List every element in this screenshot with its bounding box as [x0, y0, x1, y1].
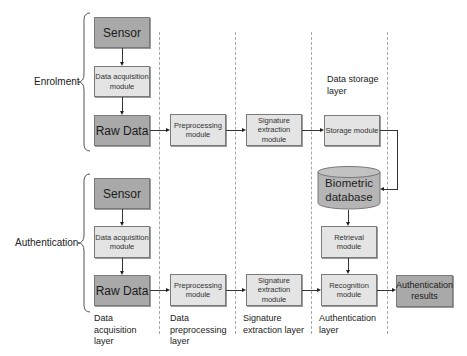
authentication-sensor-label: Sensor: [103, 187, 141, 201]
enrolment-sensor-label: Sensor: [103, 26, 141, 40]
connector: [377, 290, 392, 291]
biometric-database-label: Biometric database: [317, 177, 381, 205]
connector: [122, 258, 123, 271]
connector: [122, 97, 123, 111]
enrolment-label: Enrolment: [34, 76, 80, 87]
connector: [226, 290, 242, 291]
enrolment-signature-extraction-box: Signature extraction module: [246, 114, 302, 146]
data-storage-layer-label: Data storage layer: [327, 74, 385, 97]
enrolment-data-acquisition-box: Data acquisition module: [94, 66, 150, 97]
connector: [302, 290, 317, 291]
biometric-database: Biometric database: [317, 166, 381, 210]
authentication-raw-data-box: Raw Data: [94, 275, 150, 306]
enrolment-preprocessing-label: Preprocessing module: [171, 121, 225, 140]
connector: [226, 130, 242, 131]
layer-divider-1: [159, 32, 160, 334]
connector: [380, 130, 398, 131]
connector: [397, 130, 398, 189]
connector: [150, 130, 166, 131]
connector: [302, 130, 320, 131]
authentication-label: Authentication: [15, 237, 78, 248]
authentication-brace-icon: [76, 173, 92, 313]
connector: [348, 210, 349, 222]
retrieval-module-label: Retrieval module: [322, 233, 376, 252]
connector: [122, 209, 123, 222]
data-acquisition-layer-label: Data acquisition layer: [94, 313, 158, 348]
connector: [150, 290, 166, 291]
enrolment-sensor-box: Sensor: [94, 17, 150, 48]
authentication-data-acquisition-label: Data acquisition module: [95, 233, 149, 252]
enrolment-raw-data-box: Raw Data: [94, 115, 150, 146]
authentication-results-box: Authentication results: [396, 275, 453, 307]
layer-divider-4: [387, 32, 388, 334]
authentication-signature-extraction-box: Signature extraction module: [246, 274, 302, 306]
authentication-results-label: Authentication results: [396, 280, 453, 302]
authentication-preprocessing-box: Preprocessing module: [170, 274, 226, 306]
data-preprocessing-layer-label: Data preprocessing layer: [170, 313, 228, 348]
authentication-preprocessing-label: Preprocessing module: [171, 281, 225, 300]
connector: [384, 189, 398, 190]
layer-divider-2: [235, 32, 236, 334]
storage-module-label: Storage module: [326, 126, 379, 135]
recognition-module-box: Recognition module: [321, 274, 377, 306]
authentication-data-acquisition-box: Data acquisition module: [94, 226, 150, 258]
signature-extraction-layer-label: Signature extraction layer: [243, 313, 311, 336]
enrolment-preprocessing-box: Preprocessing module: [170, 114, 226, 146]
authentication-signature-extraction-label: Signature extraction module: [247, 276, 301, 304]
layer-divider-3: [311, 32, 312, 334]
enrolment-data-acquisition-label: Data acquisition module: [95, 72, 149, 91]
recognition-module-label: Recognition module: [322, 281, 376, 300]
connector: [348, 258, 349, 270]
connector: [122, 48, 123, 62]
enrolment-signature-extraction-label: Signature extraction module: [247, 116, 301, 144]
authentication-layer-label: Authentication layer: [319, 313, 381, 336]
storage-module-box: Storage module: [324, 115, 380, 146]
authentication-raw-data-label: Raw Data: [96, 284, 149, 298]
retrieval-module-box: Retrieval module: [321, 226, 377, 258]
enrolment-raw-data-label: Raw Data: [96, 124, 149, 138]
authentication-sensor-box: Sensor: [94, 178, 150, 209]
